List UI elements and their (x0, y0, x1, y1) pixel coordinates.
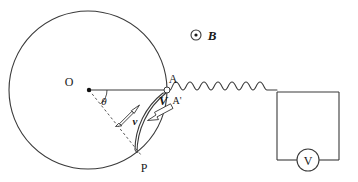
label-contact-A-prime: A' (172, 95, 181, 106)
label-velocity-v: v (133, 115, 138, 127)
label-center-O: O (65, 75, 74, 89)
center-point-dot (87, 88, 91, 92)
label-contact-A: A (169, 72, 178, 86)
label-field-B: B (207, 28, 217, 43)
label-arc-end-P: P (141, 161, 148, 175)
label-voltmeter-V: V (304, 154, 313, 168)
physics-diagram-figure: O θ A A' P v V B V (0, 0, 358, 182)
coiled-wire (170, 82, 277, 90)
diagram-canvas: O θ A A' P v V B V (0, 0, 358, 182)
field-out-of-page-dot-icon (194, 33, 197, 36)
label-velocity-V: V (159, 93, 169, 108)
label-angle-theta: θ (101, 95, 107, 107)
